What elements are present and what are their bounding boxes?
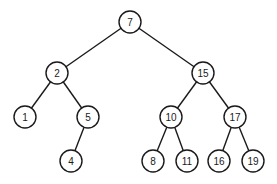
tree-node-10: 10 (160, 106, 182, 128)
tree-node-17: 17 (224, 106, 246, 128)
tree-node-19: 19 (242, 150, 264, 172)
node-label: 10 (165, 112, 177, 123)
tree-edges (25, 22, 253, 161)
tree-node-1: 1 (14, 106, 36, 128)
node-label: 17 (229, 112, 241, 123)
tree-edge-7-15 (130, 22, 203, 73)
node-label: 5 (85, 112, 91, 123)
tree-node-16: 16 (208, 150, 230, 172)
tree-node-15: 15 (192, 62, 214, 84)
tree-node-7: 7 (119, 11, 141, 33)
tree-node-4: 4 (60, 150, 82, 172)
node-label: 8 (150, 156, 156, 167)
binary-tree-diagram: 721515101748111619 (0, 0, 277, 184)
node-label: 7 (127, 17, 133, 28)
tree-node-5: 5 (77, 106, 99, 128)
tree-node-8: 8 (142, 150, 164, 172)
node-label: 16 (213, 156, 225, 167)
tree-node-11: 11 (176, 150, 198, 172)
tree-node-2: 2 (46, 62, 68, 84)
tree-nodes: 721515101748111619 (14, 11, 264, 172)
node-label: 4 (68, 156, 74, 167)
node-label: 15 (197, 68, 209, 79)
node-label: 11 (182, 156, 193, 167)
node-label: 19 (247, 156, 259, 167)
node-label: 1 (22, 112, 28, 123)
tree-edge-7-2 (57, 22, 130, 73)
node-label: 2 (54, 68, 60, 79)
